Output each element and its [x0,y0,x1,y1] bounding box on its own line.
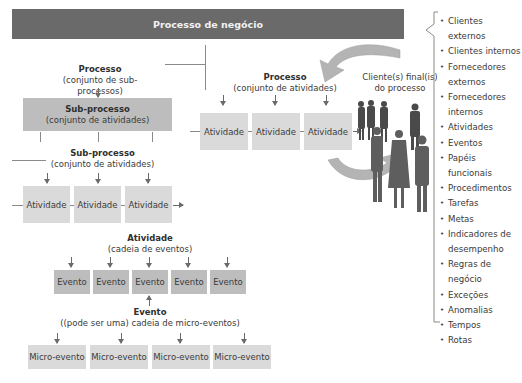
event-box: Evento [210,270,246,294]
subprocess-subtitle: (conjunto de atividades) [51,159,155,169]
event-label: Evento [174,277,204,287]
arrow-right-icon [173,205,183,206]
activity-label: Atividade [204,127,244,137]
connector-line [165,64,205,65]
business-elements-list: Clientes externos Clientes internos Forn… [440,14,522,348]
arrow-down-icon [180,333,181,343]
arrow-up-icon [149,296,150,306]
arrow-down-icon [98,173,99,183]
tick-line [40,132,41,142]
list-item: Indicadores dedesempenho [440,227,522,257]
micro-event-box: Micro-evento [90,345,148,369]
micro-event-label: Micro-evento [153,352,209,362]
list-item: Regras denegócio [440,257,522,287]
event-title: Evento [60,307,240,318]
list-item: Tempos [440,318,522,333]
list-item: Clientes externos [440,14,522,44]
list-item: Metas [440,212,522,227]
process-title: Processo [40,64,160,75]
micro-event-label: Micro-evento [214,352,270,362]
list-item: Papéis funcionais [440,151,522,181]
activity-label: Atividade [256,127,296,137]
activity-label-block: Atividade (cadeia de eventos) [95,233,205,255]
subprocess-box-title: Sub-processo [65,104,130,115]
event-label: Evento [213,277,243,287]
arrow-down-icon [188,257,189,267]
list-item: Eventos [440,136,522,151]
event-label-block: Evento ((pode ser uma) cadeia de micro-e… [60,307,240,329]
header-title: Processo de negócio [153,19,263,30]
list-item: Fornecedoresinternos [440,90,522,120]
process-activity: Atividade [200,113,248,150]
list-item: Rotas [440,333,522,348]
micro-event-box: Micro-evento [213,345,271,369]
event-box: Evento [54,270,90,294]
arrow-down-icon [57,333,58,343]
activity-label: Atividade [129,200,169,210]
tick-line [98,132,99,142]
people-group-icon [355,98,435,223]
activity-title: Atividade [95,233,205,244]
event-box: Evento [93,270,129,294]
subprocess-activity: Atividade [23,186,70,223]
micro-event-label: Micro-evento [29,352,85,362]
activity-label: Atividade [78,200,118,210]
arrow-down-icon [275,95,276,105]
arrow-down-icon [121,333,122,343]
connector-line [12,160,46,161]
connector-line [190,131,200,132]
event-box: Evento [132,270,168,294]
micro-event-box: Micro-evento [152,345,210,369]
arrow-down-icon [244,333,245,343]
list-item: Clientes internos [440,44,522,59]
subprocess-box-subtitle: (conjunto de atividades) [46,115,150,126]
subprocess-box: Sub-processo (conjunto de atividades) [23,98,172,131]
activity-subtitle: (cadeia de eventos) [108,244,193,254]
subprocess-label: Sub-processo (conjunto de atividades) [45,148,160,170]
arrow-down-icon [227,257,228,267]
arrow-down-icon [148,173,149,183]
subprocess-activity: Atividade [125,186,172,223]
list-item: Fornecedoresexternos [440,60,522,90]
list-item: Procedimentos [440,181,522,196]
micro-event-box: Micro-evento [28,345,86,369]
bracket-icon [424,10,440,325]
arrow-down-icon [71,257,72,267]
list-item: Anomalias [440,303,522,318]
micro-event-label: Micro-evento [91,352,147,362]
event-box: Evento [171,270,207,294]
arrow-down-icon [47,173,48,183]
event-label: Evento [135,277,165,287]
arrow-down-icon [149,257,150,267]
tick-line [152,132,153,142]
arrow-down-icon [98,88,99,97]
list-item: Atividades [440,120,522,135]
activity-label: Atividade [27,200,67,210]
subprocess-activity: Atividade [74,186,121,223]
connector-line [205,45,206,90]
arrow-down-icon [110,257,111,267]
list-item: Tarefas [440,196,522,211]
subprocess-title: Sub-processo [45,148,160,159]
list-item: Exceções [440,288,522,303]
event-label: Evento [57,277,87,287]
process-activity: Atividade [252,113,300,150]
event-subtitle: ((pode ser uma) cadeia de micro-eventos) [60,318,240,328]
connector-line [12,205,23,206]
arrow-down-icon [223,95,224,105]
event-label: Evento [96,277,126,287]
